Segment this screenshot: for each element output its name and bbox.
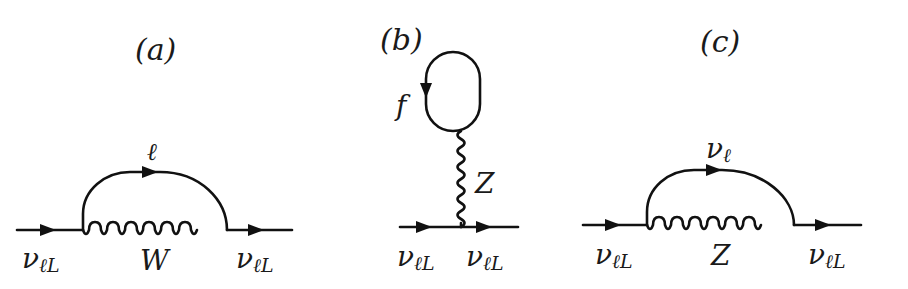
feynman-diagrams: (a) ℓ W νℓL νℓL (b) f Z νℓL νℓ	[0, 0, 908, 289]
incoming-label: νℓL	[22, 242, 60, 276]
incoming-label: νℓL	[595, 238, 633, 272]
arrow-icon	[248, 224, 264, 236]
fermion-loop	[426, 52, 480, 131]
arrow-icon	[420, 83, 432, 98]
z-boson-propagator	[458, 131, 465, 227]
panel-c-title: (c)	[700, 24, 740, 59]
boson-label: W	[140, 244, 171, 277]
loop-fermion-label: f	[394, 89, 411, 122]
outgoing-label: νℓL	[808, 238, 846, 272]
neutrino-propagator	[647, 170, 794, 225]
z-boson-propagator	[647, 217, 761, 229]
panel-c: (c) νℓ Z νℓL νℓL	[583, 24, 861, 272]
boson-label: Z	[710, 239, 731, 272]
arrow-icon	[476, 221, 492, 233]
outgoing-label: νℓL	[236, 242, 274, 276]
lepton-propagator	[83, 172, 227, 230]
loop-fermion-label: νℓ	[706, 132, 731, 166]
outgoing-label: νℓL	[466, 240, 504, 274]
arrow-icon	[815, 219, 831, 231]
arrow-icon	[706, 164, 722, 176]
panel-a: (a) ℓ W νℓL νℓL	[17, 32, 292, 277]
arrow-icon	[142, 166, 158, 178]
arrow-icon	[40, 224, 56, 236]
incoming-label: νℓL	[397, 240, 435, 274]
panel-b: (b) f Z νℓL νℓL	[380, 22, 518, 274]
loop-fermion-label: ℓ	[147, 138, 157, 166]
panel-b-title: (b)	[380, 22, 423, 57]
arrow-icon	[605, 219, 621, 231]
w-boson-propagator	[83, 222, 197, 234]
panel-a-title: (a)	[135, 32, 176, 67]
boson-label: Z	[474, 167, 495, 200]
arrow-icon	[416, 221, 432, 233]
